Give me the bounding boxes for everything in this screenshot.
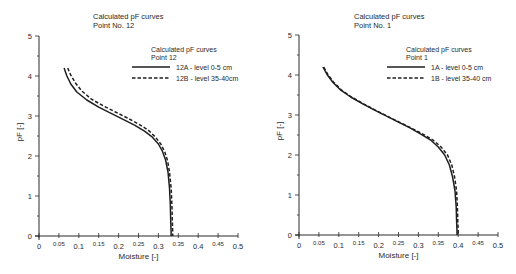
legend: Calculated pF curvesPoint 11A - level 0-… <box>387 46 491 82</box>
x-tick-label: 0.15 <box>353 240 365 246</box>
x-tick-label: 0.35 <box>172 241 184 247</box>
x-tick-label: 0.3 <box>413 241 423 250</box>
x-tick-label: 0.5 <box>493 241 503 250</box>
legend-title: Calculated pF curves <box>151 46 217 54</box>
x-tick-label: 0.05 <box>53 241 65 247</box>
chart-title: Calculated pF curves <box>93 12 164 21</box>
y-axis-label: pF [-] <box>275 122 284 141</box>
chart-title: Calculated pF curves <box>354 12 425 21</box>
chart-point-1: Calculated pF curvesPoint No. 101234500.… <box>275 12 503 260</box>
legend-title: Calculated pF curves <box>406 46 472 54</box>
series-line-solid <box>323 67 457 235</box>
chart-subtitle: Point No. 12 <box>93 21 134 30</box>
x-tick-label: 0.2 <box>113 242 123 251</box>
y-tick-label: 4 <box>288 71 292 80</box>
x-tick-label: 0.1 <box>334 241 344 250</box>
y-tick-label: 3 <box>28 112 32 121</box>
legend-entry-label: 12B - level 35-40cm <box>176 75 238 82</box>
x-tick-label: 0.2 <box>373 241 383 250</box>
x-tick-label: 0.25 <box>133 241 145 247</box>
y-tick-label: 0 <box>288 231 292 240</box>
x-tick-label: 0.4 <box>193 242 203 251</box>
legend-entry-label: 1B - level 35-40 cm <box>431 75 491 82</box>
legend-subtitle: Point 12 <box>151 54 177 61</box>
y-tick-label: 5 <box>28 32 32 41</box>
x-tick-label: 0.15 <box>93 241 105 247</box>
y-tick-label: 3 <box>288 111 292 120</box>
x-tick-label: 0.45 <box>212 241 224 247</box>
x-tick-label: 0.1 <box>74 242 84 251</box>
y-tick-label: 2 <box>28 152 32 161</box>
legend-entry-label: 1A - level 0-5 cm <box>431 64 483 71</box>
x-tick-label: 0.25 <box>393 240 405 246</box>
y-tick-label: 1 <box>28 192 32 201</box>
x-axis-label: Moisture [-] <box>378 251 418 260</box>
legend-entry-label: 12A - level 0-5 cm <box>176 64 232 71</box>
x-tick-label: 0 <box>297 241 301 250</box>
y-tick-label: 1 <box>288 191 292 200</box>
x-tick-label: 0.4 <box>453 241 463 250</box>
y-axis-label: pF [-] <box>15 123 24 142</box>
x-axis-label: Moisture [-] <box>118 252 158 261</box>
legend-subtitle: Point 1 <box>406 54 428 61</box>
x-tick-label: 0.35 <box>432 240 444 246</box>
y-tick-label: 4 <box>28 72 32 81</box>
legend: Calculated pF curvesPoint 1212A - level … <box>132 46 238 82</box>
x-tick-label: 0.45 <box>472 240 484 246</box>
pf-curve-figure: Calculated pF curvesPoint No. 1201234500… <box>0 0 516 274</box>
x-tick-label: 0.5 <box>233 242 243 251</box>
y-tick-label: 5 <box>288 31 292 40</box>
y-tick-label: 0 <box>28 232 32 241</box>
x-tick-label: 0.3 <box>153 242 163 251</box>
chart-point-12: Calculated pF curvesPoint No. 1201234500… <box>15 12 243 261</box>
chart-subtitle: Point No. 1 <box>354 21 391 30</box>
series-line-dashed <box>68 68 173 236</box>
x-tick-label: 0 <box>37 242 41 251</box>
series-line-solid <box>64 68 171 236</box>
y-tick-label: 2 <box>288 151 292 160</box>
x-tick-label: 0.05 <box>313 240 325 246</box>
